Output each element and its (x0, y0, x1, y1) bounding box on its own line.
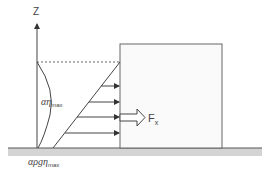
axis-label-z: Z (33, 6, 39, 17)
wave-height-label: αηmax (41, 96, 63, 108)
pressure-label: αρgηmax (28, 156, 59, 168)
diagram-canvas: Z αηmax αρgηmax Fx (0, 0, 267, 176)
pressure-arrows (65, 86, 119, 133)
pressure-diagonal (53, 62, 120, 148)
ground (8, 148, 262, 156)
block (120, 44, 222, 148)
